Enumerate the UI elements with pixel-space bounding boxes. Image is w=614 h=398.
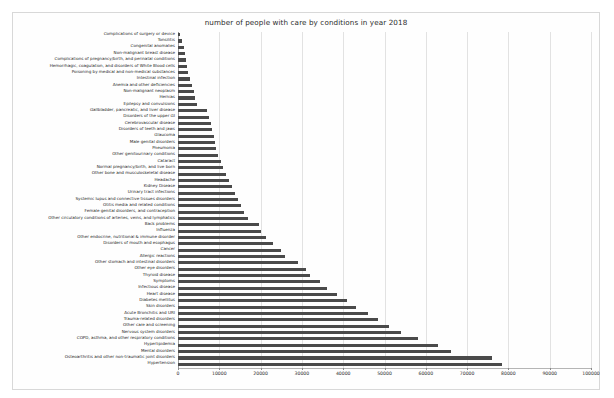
- bar: [178, 192, 235, 195]
- bar: [178, 122, 211, 125]
- bar: [178, 350, 451, 353]
- bar: [178, 230, 261, 233]
- bar: [178, 337, 418, 340]
- bar: [178, 236, 266, 239]
- bar: [178, 325, 389, 328]
- bar: [178, 84, 192, 87]
- x-tick-label: 40000: [336, 371, 351, 376]
- bar: [178, 71, 188, 74]
- bar: [178, 128, 212, 131]
- bar: [178, 46, 184, 49]
- x-tick-label: 70000: [460, 371, 475, 376]
- bar: [178, 65, 187, 68]
- x-axis: 0100002000030000400005000060000700008000…: [178, 368, 591, 388]
- bar: [178, 179, 229, 182]
- bar: [178, 198, 238, 201]
- bar: [178, 173, 226, 176]
- x-tick-mark: [261, 368, 262, 370]
- bar: [178, 268, 306, 271]
- bar: [178, 154, 218, 157]
- bar: [178, 217, 248, 220]
- x-tick-mark: [385, 368, 386, 370]
- bar: [178, 103, 197, 106]
- x-tick-label: 60000: [418, 371, 433, 376]
- plot-area: Complications of surgery or deviceTonsil…: [178, 32, 591, 368]
- bar: [178, 185, 232, 188]
- bar: [178, 58, 186, 61]
- bar: [178, 306, 356, 309]
- x-tick-label: 90000: [542, 371, 557, 376]
- bar: [178, 116, 209, 119]
- bar: [178, 77, 190, 80]
- x-tick-mark: [467, 368, 468, 370]
- bar: [178, 299, 347, 302]
- x-tick-mark: [302, 368, 303, 370]
- bar: [178, 356, 492, 359]
- bar: [178, 166, 223, 169]
- bar: [178, 160, 221, 163]
- x-tick-label: 20000: [253, 371, 268, 376]
- figure-panel: number of people with care by conditions…: [12, 12, 600, 390]
- chart-title: number of people with care by conditions…: [13, 18, 599, 27]
- bar: [178, 141, 215, 144]
- category-label: Hypertension: [148, 360, 175, 366]
- bar: [178, 204, 241, 207]
- bar: [178, 39, 182, 42]
- bar: [178, 363, 502, 366]
- bar: [178, 33, 180, 36]
- bar: [178, 249, 281, 252]
- x-tick-mark: [550, 368, 551, 370]
- bar: [178, 223, 259, 226]
- bar: [178, 135, 214, 138]
- x-tick-mark: [219, 368, 220, 370]
- bar: [178, 90, 194, 93]
- bar: [178, 109, 207, 112]
- x-tick-label: 100000: [582, 371, 600, 376]
- bar-series: Complications of surgery or deviceTonsil…: [178, 32, 591, 368]
- bar: [178, 211, 244, 214]
- bar: [178, 318, 378, 321]
- bar: [178, 274, 310, 277]
- bar: [178, 255, 285, 258]
- bar: [178, 287, 327, 290]
- bar: [178, 293, 337, 296]
- gridline-100000: [591, 32, 592, 368]
- bar: [178, 312, 368, 315]
- bar: [178, 147, 216, 150]
- x-tick-label: 10000: [212, 371, 227, 376]
- bar: [178, 242, 273, 245]
- x-tick-mark: [591, 368, 592, 370]
- bar: [178, 344, 438, 347]
- x-tick-label: 30000: [295, 371, 310, 376]
- bar: [178, 96, 195, 99]
- x-tick-mark: [178, 368, 179, 370]
- x-tick-mark: [426, 368, 427, 370]
- bar: [178, 52, 185, 55]
- x-tick-label: 80000: [501, 371, 516, 376]
- x-tick-mark: [343, 368, 344, 370]
- x-tick-mark: [508, 368, 509, 370]
- x-tick-label: 0: [177, 371, 180, 376]
- bar: [178, 280, 320, 283]
- x-tick-label: 50000: [377, 371, 392, 376]
- bar: [178, 331, 401, 334]
- bar: [178, 261, 298, 264]
